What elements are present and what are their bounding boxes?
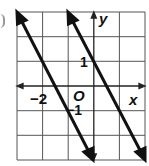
x-tick-neg2: −2 bbox=[30, 91, 47, 106]
line-2-arrow-down bbox=[136, 148, 145, 160]
line-1-arrow-down bbox=[84, 148, 93, 160]
x-axis-label: x bbox=[129, 92, 137, 107]
y-tick-1: 1 bbox=[80, 55, 88, 69]
y-tick-neg1: −1 bbox=[66, 103, 82, 117]
x-axis-arrow-right bbox=[139, 84, 145, 89]
line-1-arrow-up bbox=[17, 12, 26, 24]
origin-label: O bbox=[73, 88, 85, 103]
y-axis-arrow-up bbox=[91, 12, 96, 18]
line-2-arrow-up bbox=[68, 12, 77, 24]
y-axis-label: y bbox=[99, 11, 107, 26]
coordinate-graph bbox=[0, 0, 149, 166]
x-axis-arrow-left bbox=[17, 84, 23, 89]
